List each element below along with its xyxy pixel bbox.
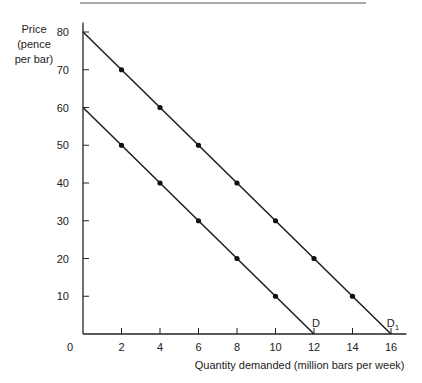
data-point — [196, 218, 201, 223]
data-point — [119, 143, 124, 148]
y-tick-label: 70 — [57, 64, 69, 76]
data-point — [119, 67, 124, 72]
y-tick-label: 80 — [57, 26, 69, 38]
curve-label-D: D — [312, 317, 320, 329]
data-point — [273, 218, 278, 223]
data-point — [311, 256, 316, 261]
axes: 24681012141610203040506070800 — [57, 23, 407, 353]
x-tick-label: 16 — [385, 341, 397, 353]
data-point — [234, 256, 239, 261]
data-point — [196, 143, 201, 148]
x-tick-label: 8 — [234, 341, 240, 353]
x-tick-label: 6 — [195, 341, 201, 353]
y-tick-label: 20 — [57, 253, 69, 265]
x-axis-title: Quantity demanded (million bars per week… — [195, 359, 405, 371]
data-point — [273, 294, 278, 299]
data-point — [157, 105, 162, 110]
y-axis-title: (pence — [17, 38, 51, 50]
x-tick-label: 12 — [308, 341, 320, 353]
x-tick-label: 4 — [157, 341, 163, 353]
y-tick-label: 40 — [57, 177, 69, 189]
labels-group: DD1Quantity demanded (million bars per w… — [15, 23, 405, 371]
data-point — [234, 180, 239, 185]
y-axis-title: Price — [21, 23, 46, 35]
x-tick-label: 2 — [118, 341, 124, 353]
y-axis-title: per bar) — [15, 53, 54, 65]
origin-label: 0 — [67, 341, 73, 353]
x-tick-label: 14 — [346, 341, 358, 353]
data-point — [350, 294, 355, 299]
y-tick-label: 50 — [57, 139, 69, 151]
x-tick-label: 10 — [269, 341, 281, 353]
y-tick-label: 10 — [57, 290, 69, 302]
curve-label-D1: D1 — [387, 317, 400, 332]
y-tick-label: 60 — [57, 102, 69, 114]
demand-chart: 24681012141610203040506070800 DD1Quantit… — [0, 0, 422, 383]
data-point — [157, 180, 162, 185]
series-group — [83, 32, 391, 334]
y-tick-label: 30 — [57, 215, 69, 227]
